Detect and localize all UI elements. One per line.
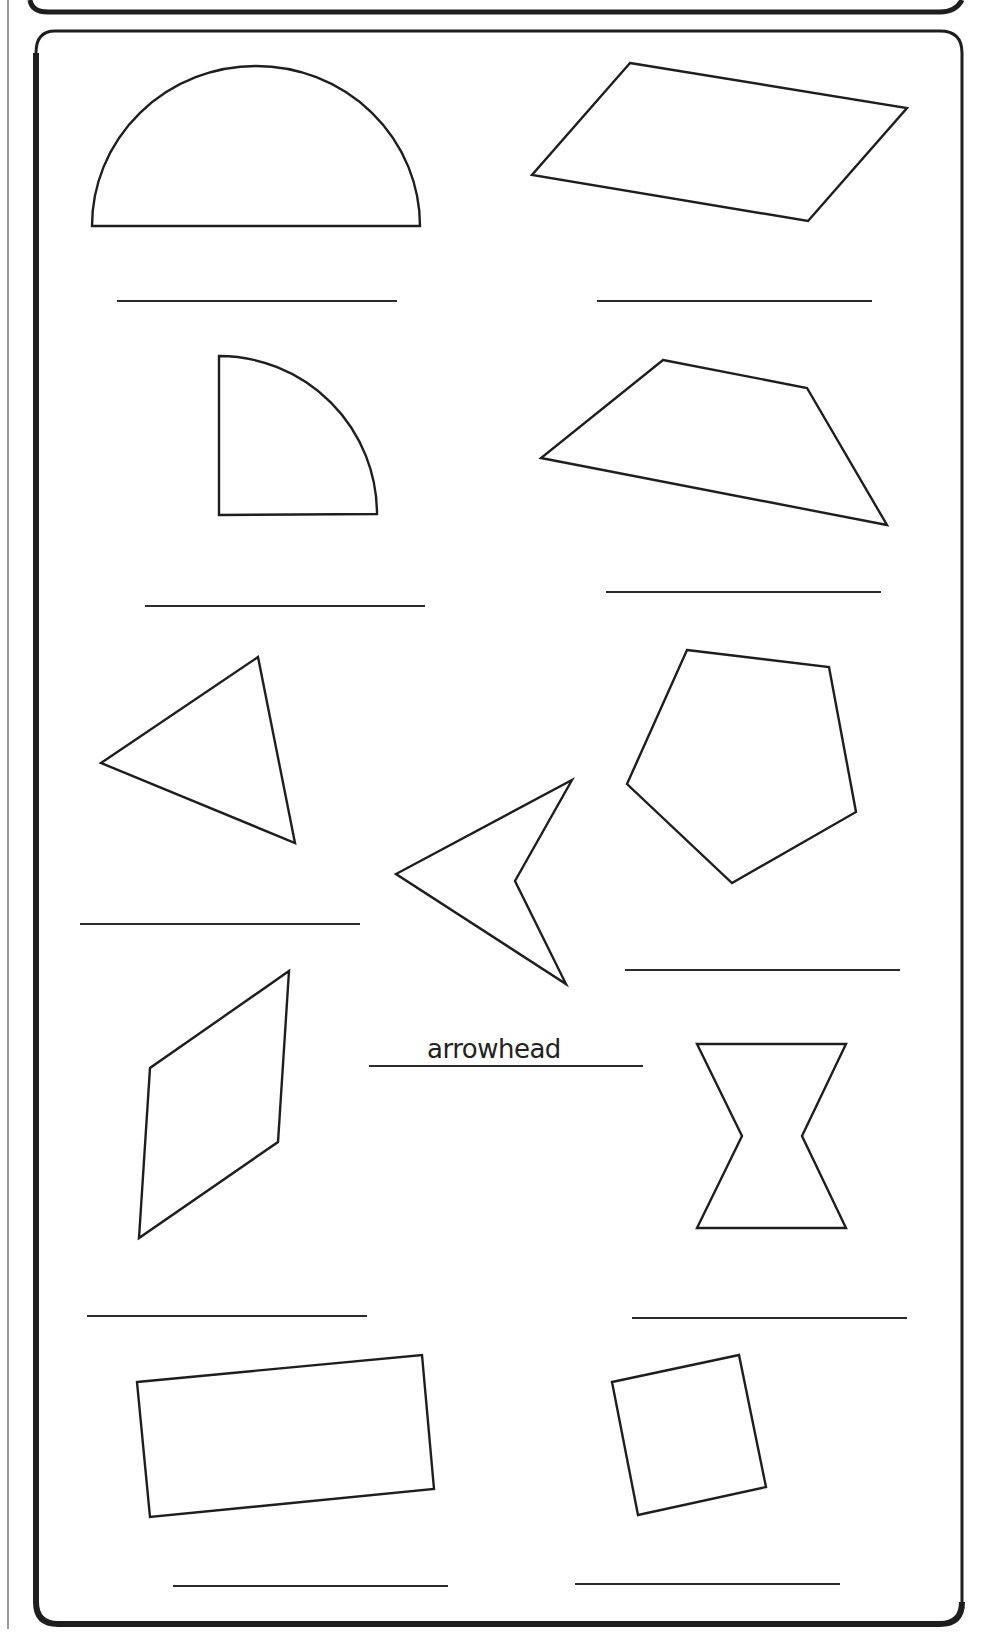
trapezoid-shape <box>541 360 887 525</box>
rhombus-shape <box>139 971 289 1238</box>
triangle-shape <box>101 657 295 843</box>
worksheet-canvas <box>0 0 990 1646</box>
main-panel-shadow <box>36 53 962 1624</box>
rectangle-shape <box>137 1355 434 1517</box>
square-shape <box>612 1355 766 1515</box>
parallelogram-shape <box>532 63 907 221</box>
arrowhead-shape <box>396 780 572 984</box>
example-answer-label: arrowhead <box>427 1034 561 1064</box>
pentagon-shape <box>627 650 856 883</box>
semicircle-shape <box>92 66 420 226</box>
main-panel-border <box>36 31 962 1624</box>
hourglass-shape <box>697 1044 846 1228</box>
header-panel-edge <box>30 0 962 12</box>
quarter-circle-shape <box>219 356 377 515</box>
